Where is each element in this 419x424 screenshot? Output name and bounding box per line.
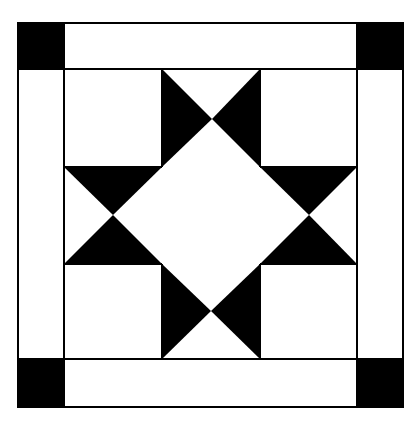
quilt-block-diagram	[0, 0, 419, 424]
cornerstone-bottom-left	[18, 359, 64, 407]
cornerstone-top-right	[357, 23, 403, 69]
cornerstone-top-left	[18, 23, 64, 69]
cornerstone-bottom-right	[357, 359, 403, 407]
